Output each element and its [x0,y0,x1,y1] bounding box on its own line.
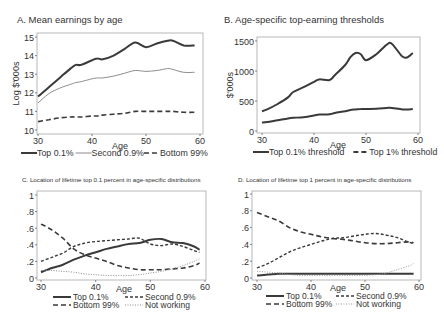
panel-title: A. Mean earnings by age [17,14,123,25]
y-tick-label: .4 [241,240,249,250]
panel-d: D. Location of lifetime top 1 percent in… [238,176,424,309]
legend-label: Bottom 99% [73,300,120,310]
x-tick-label: 60 [200,282,210,292]
legend: Top 0.1%Second 0.9%Bottom 99%Not working [53,292,196,310]
y-tick-label: 11 [25,107,34,117]
series-line-top-0-1-threshold [262,43,413,111]
x-axis-label: Age [116,284,132,294]
y-tick-label: 1 [29,191,34,201]
legend-label: Not working [356,299,401,309]
y-tick-label: 1000 [234,67,254,77]
legend-label: Top 1% threshold [369,147,437,157]
y-axis: 050010001500 [234,37,257,137]
series-line-second-0-9- [38,69,195,103]
y-tick-label: 1 [244,190,249,200]
y-tick-label: 13 [24,70,34,80]
plot-frame [252,191,421,280]
x-tick-label: 30 [252,282,262,292]
y-tick-label: 12 [24,88,34,98]
x-tick-label: 60 [195,136,205,146]
legend-label: Bottom 99% [160,148,208,158]
y-axis: 0.2.4.6.81 [241,190,252,284]
y-tick-label: 0 [29,274,34,284]
series-line-bottom-99- [38,111,195,121]
y-tick-label: .4 [26,240,34,250]
figure-stage: A. Mean earnings by age10111213141530405… [0,0,444,331]
panel-b: B. Age-specific top-earning thresholds05… [224,14,437,157]
x-tick-label: 50 [361,135,371,145]
panel-title: B. Age-specific top-earning thresholds [224,14,384,25]
series-lines [41,224,200,275]
x-tick-label: 40 [91,282,101,292]
x-tick-label: 30 [36,282,46,292]
legend-label: Bottom 99% [286,299,333,309]
x-axis-label: Age [330,283,346,293]
legend: Top 0.1%Second 0.9%Bottom 99% [21,148,208,158]
y-tick-label: .8 [26,207,34,217]
series-line-top-0-1- [257,274,414,276]
four-panel-figure: A. Mean earnings by age10111213141530405… [0,0,444,331]
y-tick-label: .2 [241,257,249,267]
x-tick-label: 50 [145,282,155,292]
y-axis-label: Log $'000s [11,61,21,105]
x-tick-label: 60 [414,282,424,292]
series-line-bottom-99- [257,213,414,244]
panel-title: D. Location of lifetime top 1 percent in… [238,176,411,183]
legend: Top 0.1%Second 0.9%Bottom 99%Not working [266,291,407,309]
panel-c: C. Location of lifetime top 0.1 percent … [22,176,210,310]
series-line-top-1-threshold [262,108,413,123]
series-lines [257,213,414,276]
x-tick-label: 60 [413,135,423,145]
panel-a: A. Mean earnings by age10111213141530405… [11,14,208,158]
legend-label: Top 0.1% [37,148,74,158]
legend-label: Top 0.1% threshold [269,147,344,157]
y-tick-label: .6 [241,223,249,233]
series-line-not-working [41,259,200,276]
y-axis: 101112131415 [24,33,37,136]
y-axis: 0.2.4.6.81 [26,191,37,284]
x-tick-label: 50 [141,136,151,146]
y-tick-label: 15 [24,33,34,43]
y-tick-label: 1500 [234,37,254,47]
x-tick-label: 40 [87,136,97,146]
plot-frame [37,33,203,134]
series-line-top-0-1- [38,40,195,96]
y-tick-label: 14 [24,51,34,61]
series-line-second-0-9- [41,238,200,261]
x-tick-label: 30 [257,135,267,145]
y-tick-label: 0 [249,127,254,137]
legend-label: Second 0.9% [92,148,145,158]
series-lines [38,40,195,121]
panel-title: C. Location of lifetime top 0.1 percent … [22,176,201,183]
x-tick-label: 40 [309,135,319,145]
y-tick-label: .8 [241,206,249,216]
y-tick-label: .2 [26,257,34,267]
series-lines [262,43,413,123]
y-axis-label: $'000s [225,71,235,98]
x-tick-label: 30 [33,136,43,146]
y-tick-label: 500 [239,97,254,107]
y-tick-label: .6 [26,224,34,234]
y-tick-label: 10 [24,126,34,136]
legend-label: Not working [145,300,190,310]
y-tick-label: 0 [244,274,249,284]
